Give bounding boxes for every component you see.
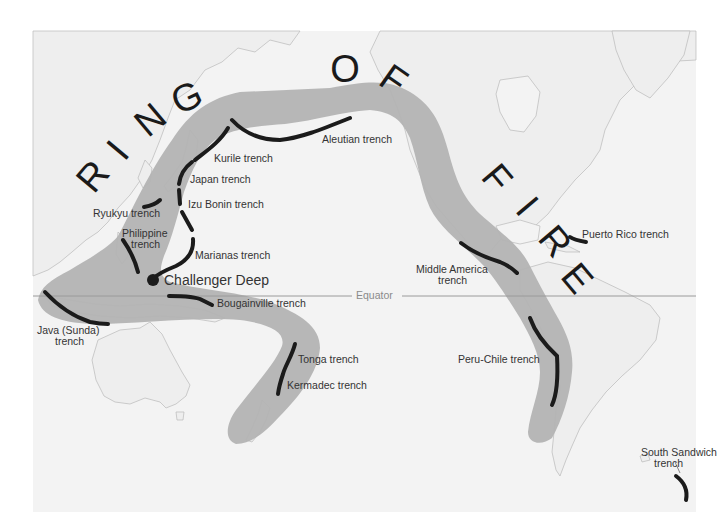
label-bougainville: Bougainville trench [217, 297, 306, 309]
equator-label: Equator [356, 289, 393, 301]
label-tonga: Tonga trench [298, 353, 359, 365]
label-south-sandwich-2: trench [654, 457, 683, 469]
ring-of-fire-map: Equator Challenger Deep [0, 0, 728, 532]
challenger-deep-marker [147, 274, 159, 286]
label-marianas: Marianas trench [195, 249, 270, 261]
label-peru-chile: Peru-Chile trench [458, 353, 540, 365]
label-java-2: trench [55, 335, 84, 347]
label-philippine-2: trench [131, 238, 160, 250]
land-tasmania [176, 412, 184, 420]
trench-izu-bonin [179, 190, 180, 204]
label-kurile: Kurile trench [214, 152, 273, 164]
challenger-deep-label: Challenger Deep [164, 272, 269, 288]
label-kermadec: Kermadec trench [287, 379, 367, 391]
label-japan: Japan trench [190, 173, 251, 185]
label-aleutian: Aleutian trench [322, 133, 392, 145]
label-izu-bonin: Izu Bonin trench [188, 198, 264, 210]
label-middle-america-2: trench [438, 274, 467, 286]
label-puerto-rico: Puerto Rico trench [582, 228, 669, 240]
title-letter-4: O [330, 48, 360, 90]
label-ryukyu: Ryukyu trench [93, 207, 160, 219]
